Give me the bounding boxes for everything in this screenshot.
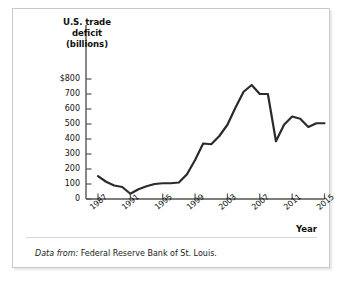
chart-axes (86, 25, 325, 199)
source-note-lead: Data from: (35, 249, 78, 258)
y-tick-label: 700 (40, 89, 80, 98)
y-tick-label: 600 (40, 104, 80, 113)
y-axis-title: U.S. tradedeficit(billions) (56, 17, 118, 50)
y-tick-label: 0 (40, 194, 80, 203)
x-axis-title: Year (296, 224, 330, 235)
y-tick-label: 300 (40, 149, 80, 158)
y-axis-ticks (86, 79, 92, 199)
source-note: Data from: Federal Reserve Bank of St. L… (35, 249, 217, 258)
source-note-text: Federal Reserve Bank of St. Louis. (81, 249, 217, 258)
y-tick-label: 500 (40, 119, 80, 128)
y-tick-label: 400 (40, 134, 80, 143)
y-tick-label: 200 (40, 164, 80, 173)
trade-deficit-data-line (98, 85, 325, 194)
y-tick-label: $800 (40, 74, 80, 83)
chart-figure: U.S. tradedeficit(billions) 010020030040… (12, 8, 330, 268)
y-tick-label: 100 (40, 179, 80, 188)
footer-divider (26, 237, 317, 238)
plot-area: U.S. tradedeficit(billions) 010020030040… (13, 9, 331, 241)
